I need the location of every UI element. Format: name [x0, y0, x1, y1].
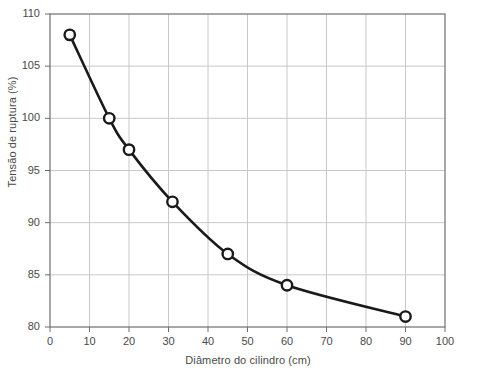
data-markers — [65, 30, 411, 322]
data-point — [124, 144, 134, 154]
data-point — [65, 30, 75, 40]
chart-container: Tensão de ruptura (%) Diâmetro do cilind… — [0, 0, 482, 380]
plot-area — [0, 0, 482, 380]
data-point — [400, 311, 410, 321]
gridlines — [50, 14, 445, 327]
data-point — [167, 197, 177, 207]
data-point — [223, 249, 233, 259]
data-line — [70, 35, 406, 317]
tick-marks — [45, 14, 445, 332]
data-point — [104, 113, 114, 123]
data-point — [282, 280, 292, 290]
